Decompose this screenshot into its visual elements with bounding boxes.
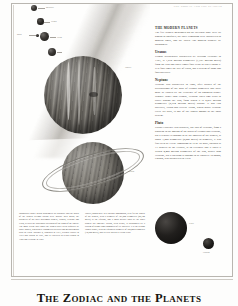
running-head: The Zodiac and the Planets	[174, 5, 222, 8]
section-heading-pluto: Pluto	[155, 121, 221, 125]
section-heading-neptune: Neptune	[155, 78, 221, 82]
figure-caption-block: Boundaries above Much astrologers are or…	[19, 212, 145, 241]
figure-label-mercury: Mercury	[46, 6, 54, 8]
caption-text-left: Boundaries above Much astrologers are or…	[19, 212, 79, 241]
article-text-column: The Modern Planets The five planets ment…	[155, 26, 221, 165]
planet-jupiter	[44, 56, 122, 134]
title-divider-rule	[11, 279, 233, 280]
planet-disc-mercury	[31, 5, 37, 11]
planet-charon	[203, 238, 214, 249]
planet-disc-venus	[37, 18, 44, 25]
caption-text-right: Jupiter, shown here in a Voyager photogr…	[85, 212, 145, 234]
section-heading-modern-planets: The Modern Planets	[155, 26, 221, 30]
figure-label-venus: Venus	[51, 20, 57, 22]
planet-disc-mars	[36, 34, 39, 37]
planet-disc-earth	[40, 32, 49, 41]
chapter-title: The Zodiac and the Planets	[0, 291, 238, 306]
section-heading-uranus: Uranus	[155, 50, 221, 54]
figure-label-pluto: Pluto	[189, 222, 194, 224]
figure-label-earth: Earth	[57, 36, 62, 38]
caption-column-right: Jupiter, shown here in a Voyager photogr…	[85, 212, 145, 241]
section-body-pluto: Pluto's existence was deduced, like that…	[155, 126, 221, 161]
figure-label-mars: Mars	[17, 33, 22, 35]
section-body-neptune: Neptune was discovered in 1846, after st…	[155, 83, 221, 118]
planet-illustration: Mercury Venus Earth Mars Jupiter Saturn	[12, 4, 150, 204]
planet-disc-extra	[48, 48, 56, 56]
caption-column-left: Boundaries above Much astrologers are or…	[19, 212, 79, 241]
planet-pluto	[155, 212, 187, 244]
figure-label-charon: Charon	[203, 251, 210, 253]
figure-label-jupiter: Jupiter	[125, 66, 131, 68]
book-page: The Zodiac and the Planets Mercury Venus…	[0, 0, 238, 306]
section-body-modern-planets: The five planets mentioned on the previo…	[155, 31, 221, 47]
figure-label-saturn: Saturn	[128, 170, 134, 172]
section-body-uranus: Uranus accidentally discovered by Willia…	[155, 55, 221, 74]
planet-saturn	[48, 130, 144, 204]
